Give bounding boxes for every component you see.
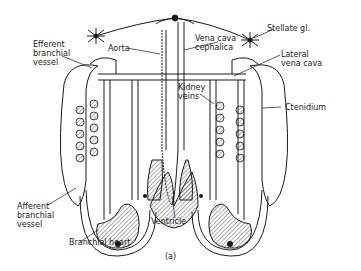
label-kidney-veins: Kidney veins <box>178 83 205 101</box>
panel-label: (a) <box>165 252 176 261</box>
kidney-appendages <box>76 100 244 162</box>
stellate-ganglion-left <box>87 28 105 44</box>
label-aorta: Aorta <box>108 44 130 53</box>
label-lateral-vena-cava: Lateral vena cava <box>281 50 322 68</box>
label-efferent-branchial-vessel: Efferent branchial vessel <box>33 40 70 67</box>
label-vena-cava-cephalica: Vena cava cephalica <box>195 34 236 52</box>
ctenidium-right <box>250 65 288 206</box>
label-stellate-gl: Stellate gl. <box>267 24 310 33</box>
label-afferent-branchial-vessel: Afferent branchial vessel <box>17 202 54 229</box>
label-ventricle: Ventricle <box>151 217 186 226</box>
label-ctenidium: Ctenidium <box>285 103 326 112</box>
stellate-ganglion-right <box>241 32 259 48</box>
label-branchial-heart: Branchial heart <box>69 238 130 247</box>
vena-cava-cephalica <box>172 22 178 205</box>
